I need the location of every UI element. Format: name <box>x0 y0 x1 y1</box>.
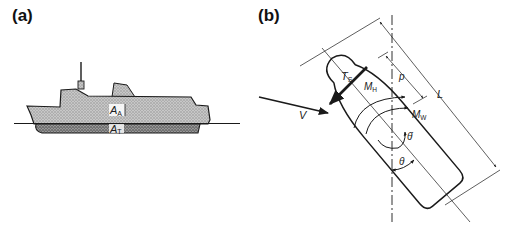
wind-velocity-label: V <box>299 109 308 121</box>
lever-arm-label: p <box>398 71 405 82</box>
wind-velocity-arrow <box>259 97 328 113</box>
hydro-moment-arc <box>354 97 405 128</box>
panel-b-ship-plan-view: L p TS V MH MW θ̇ θ <box>259 15 500 222</box>
hydro-moment-label: MH <box>364 81 377 93</box>
panel-a-ship-side-view: AA AT <box>14 62 240 135</box>
wind-moment-arc <box>366 108 408 134</box>
side-thrust-arrow <box>330 67 367 104</box>
mast-base <box>78 81 84 89</box>
heading-angle-label: θ <box>399 156 405 167</box>
diagram-canvas: AA AT L p TS V <box>0 0 518 228</box>
wind-moment-label: MW <box>412 109 427 121</box>
ship-length-label: L <box>437 88 443 100</box>
funnel <box>112 83 135 97</box>
side-thrust-label: TS <box>341 70 353 83</box>
yaw-rate-label: θ̇ <box>407 131 413 142</box>
